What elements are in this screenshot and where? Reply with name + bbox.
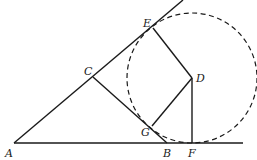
label-D: D <box>195 72 205 85</box>
segment-ED <box>153 28 192 78</box>
label-A: A <box>4 147 13 160</box>
segment-CB <box>93 77 167 143</box>
label-E: E <box>142 17 151 30</box>
label-B: B <box>162 147 171 160</box>
label-C: C <box>84 65 93 78</box>
label-F: F <box>187 147 196 160</box>
geometry-diagram: A B F C E D G <box>0 0 257 160</box>
segment-DG <box>152 78 192 126</box>
label-G: G <box>141 126 150 139</box>
line-AE <box>14 0 183 143</box>
